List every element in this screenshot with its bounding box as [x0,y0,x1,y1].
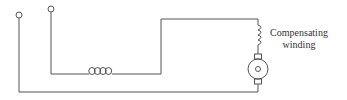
terminal-circle-icon [16,12,22,18]
terminal-1 [16,12,22,92]
circuit-diagram: Compensating winding [0,0,347,100]
brush-top-icon [255,54,262,59]
armature-circle-icon [248,59,268,79]
compensating-winding-label-line1: Compensating [270,27,328,38]
terminal-2 [48,6,54,74]
terminal-circle-icon [48,6,54,12]
compensating-winding-coil-icon [258,25,261,45]
series-field-coil-icon [89,68,112,75]
armature-motor-icon [248,54,268,84]
brush-bottom-icon [255,79,262,84]
compensating-winding-label-line2: winding [283,39,316,50]
armature-shaft-icon [256,67,261,72]
